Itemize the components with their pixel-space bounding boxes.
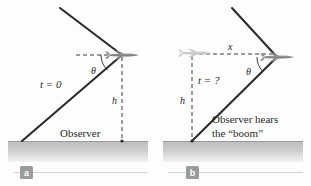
angle-label-a: θ: [91, 65, 96, 76]
distance-label-b: x: [227, 41, 233, 52]
observer-hears-label-line2: the “boom”: [212, 127, 263, 139]
observer-hears-label-line1: Observer hears: [212, 113, 278, 125]
ground-surface-a: [8, 141, 148, 162]
time-label-a: t = 0: [40, 78, 62, 90]
physics-figure: t = 0 θ h Observer x θ t = ? h: [0, 0, 311, 186]
time-label-b: t = ?: [198, 74, 220, 86]
height-label-b: h: [180, 95, 185, 106]
ground-surface-b: [163, 141, 303, 162]
height-label-a: h: [112, 95, 117, 106]
angle-label-b: θ: [246, 66, 251, 77]
observer-label-a: Observer: [60, 127, 101, 139]
observer-point-a: [120, 139, 123, 142]
panel-badge-b-label: b: [190, 168, 196, 178]
observer-point-b: [190, 139, 193, 142]
